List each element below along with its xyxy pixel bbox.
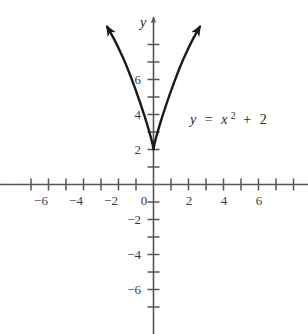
y-tick-label-neg2: −2 bbox=[127, 212, 141, 227]
equation-variable: x bbox=[220, 112, 228, 127]
x-tick-label-neg6: −6 bbox=[34, 193, 48, 208]
y-tick-label-4: 4 bbox=[135, 107, 142, 122]
equation-plus: + bbox=[243, 112, 251, 127]
x-tick-label-4: 4 bbox=[221, 193, 228, 208]
x-tick-label-6: 6 bbox=[256, 193, 263, 208]
y-tick-label-2: 2 bbox=[135, 142, 142, 157]
graph-figure: −6 −4 −2 0 2 4 6 6 4 2 −2 −4 −6 y y = x … bbox=[0, 0, 308, 334]
y-tick-label-6: 6 bbox=[135, 72, 142, 87]
y-axis-name-label: y bbox=[138, 15, 147, 30]
coordinate-plane-svg: −6 −4 −2 0 2 4 6 6 4 2 −2 −4 −6 y y = x … bbox=[0, 0, 308, 334]
x-tick-label-origin: 0 bbox=[141, 193, 148, 208]
y-tick-label-neg6: −6 bbox=[127, 282, 141, 297]
x-tick-label-neg4: −4 bbox=[69, 193, 83, 208]
equation-equals: = bbox=[205, 112, 213, 127]
equation-lhs: y bbox=[188, 112, 197, 127]
y-tick-label-neg4: −4 bbox=[127, 247, 141, 262]
equation-exponent: 2 bbox=[231, 110, 236, 121]
equation-constant: 2 bbox=[260, 112, 267, 127]
x-tick-label-neg2: −2 bbox=[104, 193, 118, 208]
x-tick-label-2: 2 bbox=[186, 193, 193, 208]
